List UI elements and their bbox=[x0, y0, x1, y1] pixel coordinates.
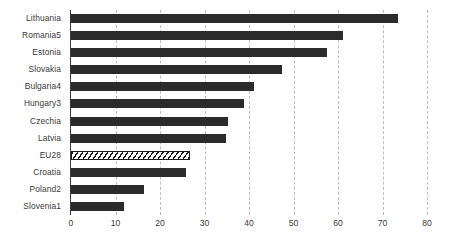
bar-eu28 bbox=[71, 151, 190, 160]
x-tick-label-10: 10 bbox=[111, 218, 121, 229]
gridline-30 bbox=[205, 10, 206, 215]
x-tick-label-30: 30 bbox=[200, 218, 210, 229]
x-tick-label-70: 70 bbox=[378, 218, 388, 229]
category-label-croatia: Croatia bbox=[0, 168, 61, 177]
bar-slovenia1 bbox=[71, 202, 124, 211]
gridline-20 bbox=[160, 10, 161, 215]
bar-estonia bbox=[71, 48, 327, 57]
gridline-50 bbox=[294, 10, 295, 215]
bar-lithuania bbox=[71, 14, 398, 23]
bar-poland2 bbox=[71, 185, 144, 194]
gridline-80 bbox=[427, 10, 428, 215]
category-label-czechia: Czechia bbox=[0, 117, 61, 126]
gridline-70 bbox=[383, 10, 384, 215]
bar-czechia bbox=[71, 117, 228, 126]
category-label-latvia: Latvia bbox=[0, 134, 61, 143]
bar-chart: LithuaniaRomania5EstoniaSlovakiaBulgaria… bbox=[0, 0, 449, 247]
category-label-lithuania: Lithuania bbox=[0, 14, 61, 23]
x-tick-label-80: 80 bbox=[422, 218, 432, 229]
plot-area bbox=[71, 10, 427, 215]
category-label-estonia: Estonia bbox=[0, 48, 61, 57]
bar-latvia bbox=[71, 134, 226, 143]
bar-romania5 bbox=[71, 31, 343, 40]
category-label-bulgaria4: Bulgaria4 bbox=[0, 82, 61, 91]
x-tick-label-0: 0 bbox=[69, 218, 74, 229]
x-tick-label-20: 20 bbox=[155, 218, 165, 229]
gridline-60 bbox=[338, 10, 339, 215]
category-label-romania5: Romania5 bbox=[0, 31, 61, 40]
category-label-hungary3: Hungary3 bbox=[0, 99, 61, 108]
x-tick-label-50: 50 bbox=[289, 218, 299, 229]
x-tick-label-60: 60 bbox=[333, 218, 343, 229]
bar-bulgaria4 bbox=[71, 82, 254, 91]
gridline-40 bbox=[249, 10, 250, 215]
category-label-slovenia1: Slovenia1 bbox=[0, 202, 61, 211]
category-axis-labels: LithuaniaRomania5EstoniaSlovakiaBulgaria… bbox=[0, 10, 66, 215]
bar-hungary3 bbox=[71, 99, 244, 108]
bar-slovakia bbox=[71, 65, 282, 74]
x-tick-label-40: 40 bbox=[244, 218, 254, 229]
bar-croatia bbox=[71, 168, 186, 177]
category-label-poland2: Poland2 bbox=[0, 185, 61, 194]
x-axis-tick-labels: 01020304050607080 bbox=[71, 218, 427, 234]
category-label-slovakia: Slovakia bbox=[0, 65, 61, 74]
category-label-eu28: EU28 bbox=[0, 151, 61, 160]
